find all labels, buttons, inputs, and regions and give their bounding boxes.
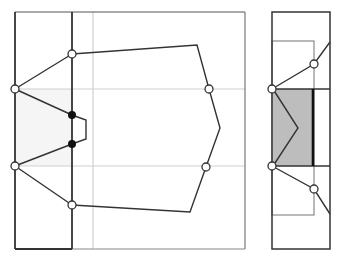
open-node	[68, 50, 76, 58]
fan-edge	[15, 166, 72, 205]
upper-path	[272, 42, 330, 89]
polygon-outline	[72, 45, 220, 212]
left-panel	[11, 12, 245, 249]
open-node	[11, 162, 19, 170]
open-node	[310, 185, 318, 193]
open-node	[68, 201, 76, 209]
open-node	[268, 85, 276, 93]
shaded-region	[273, 89, 313, 166]
fan-edge	[15, 54, 72, 89]
filled-node	[68, 140, 76, 148]
lower-path	[272, 166, 330, 214]
open-node	[205, 85, 213, 93]
open-node	[11, 85, 19, 93]
open-node	[310, 60, 318, 68]
filled-node	[68, 111, 76, 119]
diagram-canvas	[0, 0, 341, 257]
open-node	[202, 163, 210, 171]
open-node	[268, 162, 276, 170]
right-panel	[268, 12, 330, 249]
notch	[72, 115, 86, 144]
